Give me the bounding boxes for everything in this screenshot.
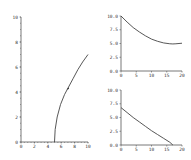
x-tick-label: 4: [46, 144, 49, 149]
top-right-plot: 051015200.02.55.07.510.0: [107, 14, 185, 79]
y-tick-label: 7.5: [110, 27, 118, 32]
x-tick-label: 15: [164, 147, 170, 152]
y-tick-label: 7.5: [110, 101, 118, 106]
x-tick-label: 5: [135, 73, 138, 78]
y-tick-label: 5.0: [110, 41, 118, 46]
x-tick-label: 10: [85, 144, 91, 149]
x-tick-label: 6: [60, 144, 63, 149]
y-tick-label: 4: [15, 90, 18, 95]
x-tick-label: 10: [149, 73, 155, 78]
y-tick-label: 6: [15, 65, 18, 70]
x-tick-label: 15: [164, 73, 170, 78]
data-curve: [55, 55, 89, 143]
y-tick-label: 2.5: [110, 129, 118, 134]
data-curve: [121, 108, 173, 145]
x-tick-label: 0: [120, 147, 123, 152]
trajectory-plot: 02468100246810: [13, 15, 91, 150]
y-tick-label: 10.0: [107, 14, 118, 19]
x-tick-label: 5: [135, 147, 138, 152]
y-tick-label: 0: [15, 140, 18, 145]
y-tick-label: 2.5: [110, 55, 118, 60]
x-tick-label: 0: [120, 73, 123, 78]
y-tick-label: 0.0: [110, 69, 118, 74]
y-tick-label: 10.0: [107, 88, 118, 93]
y-tick-label: 8: [15, 40, 18, 45]
y-tick-label: 0.0: [110, 143, 118, 148]
y-tick-label: 5.0: [110, 115, 118, 120]
x-tick-label: 0: [20, 144, 23, 149]
x-tick-label: 20: [179, 147, 185, 152]
x-tick-label: 2: [33, 144, 36, 149]
y-tick-label: 2: [15, 115, 18, 120]
x-tick-label: 8: [73, 144, 76, 149]
chart-figure: 02468100246810051015200.02.55.07.510.005…: [0, 0, 191, 160]
y-tick-label: 10: [13, 15, 19, 20]
x-tick-label: 10: [149, 147, 155, 152]
bottom-right-plot: 051015200.02.55.07.510.0: [107, 88, 185, 153]
x-tick-label: 20: [179, 73, 185, 78]
data-curve: [121, 16, 182, 44]
